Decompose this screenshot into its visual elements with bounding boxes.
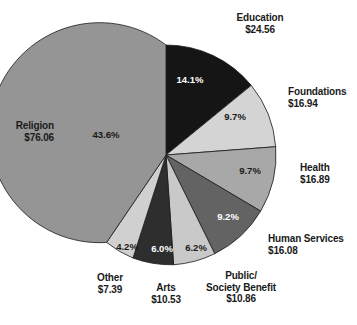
pie-label-education: Education $24.56 bbox=[212, 12, 308, 35]
pie-label-education-value: $24.56 bbox=[212, 24, 308, 36]
pie-label-arts-name: Arts bbox=[139, 282, 193, 294]
pie-label-foundations: Foundations $16.94 bbox=[288, 86, 357, 109]
pie-label-foundations-value: $16.94 bbox=[288, 98, 357, 110]
pie-pct-arts: 6.0% bbox=[151, 243, 173, 254]
pie-label-human-services: Human Services $16.08 bbox=[268, 233, 357, 256]
pie-pct-religion: 43.6% bbox=[93, 129, 120, 140]
pie-label-arts: Arts $10.53 bbox=[139, 282, 193, 305]
pie-label-religion: Religion $76.06 bbox=[2, 120, 54, 143]
pie-label-health: Health $16.89 bbox=[300, 162, 357, 185]
pie-label-foundations-name: Foundations bbox=[288, 86, 357, 98]
pie-pct-education: 14.1% bbox=[177, 74, 204, 85]
pie-label-health-name: Health bbox=[300, 162, 357, 174]
pie-label-other-value: $7.39 bbox=[84, 284, 136, 296]
pie-pct-foundations: 9.7% bbox=[224, 111, 246, 122]
pie-pct-health: 9.7% bbox=[239, 165, 261, 176]
pie-label-public-society-benefit-name-2: Society Benefit bbox=[196, 282, 286, 294]
pie-pct-public-society-benefit: 6.2% bbox=[185, 242, 207, 253]
pie-chart: 14.1% 9.7% 9.7% 9.2% 6.2% 6.0% 4.2% 43.6… bbox=[0, 0, 357, 325]
pie-pct-other: 4.2% bbox=[116, 241, 138, 252]
pie-label-public-society-benefit-name-1: Public/ bbox=[196, 270, 286, 282]
pie-label-religion-name: Religion bbox=[2, 120, 54, 132]
pie-label-public-society-benefit: Public/ Society Benefit $10.86 bbox=[196, 270, 286, 305]
pie-label-other-name: Other bbox=[84, 272, 136, 284]
pie-slices bbox=[0, 23, 276, 265]
pie-label-human-services-name: Human Services bbox=[268, 233, 357, 245]
pie-pct-human-services: 9.2% bbox=[217, 211, 239, 222]
pie-label-arts-value: $10.53 bbox=[139, 294, 193, 306]
pie-label-education-name: Education bbox=[212, 12, 308, 24]
pie-label-human-services-value: $16.08 bbox=[268, 245, 357, 257]
pie-label-health-value: $16.89 bbox=[300, 174, 357, 186]
pie-label-other: Other $7.39 bbox=[84, 272, 136, 295]
pie-label-religion-value: $76.06 bbox=[2, 132, 54, 144]
pie-label-public-society-benefit-value: $10.86 bbox=[196, 293, 286, 305]
